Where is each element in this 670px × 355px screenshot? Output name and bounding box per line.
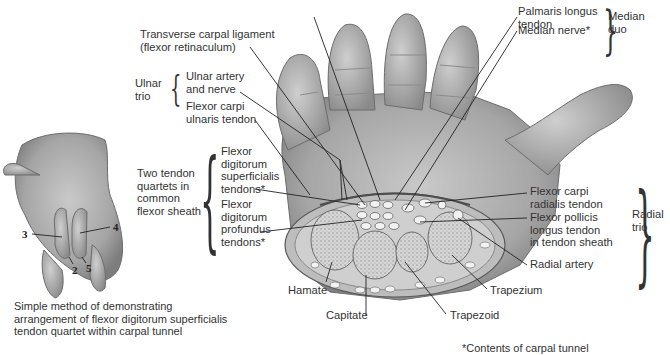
radial-trio-brace: { xyxy=(635,170,655,298)
inset-finger-number-3: 3 xyxy=(22,228,28,240)
footnote: *Contents of carpal tunnel xyxy=(462,342,589,355)
label-hamate: Hamate xyxy=(288,284,327,297)
label-median-nerve: Median nerve* xyxy=(518,24,590,37)
group-label-two-tendon-quartets: Two tendon quartets in common flexor she… xyxy=(137,167,201,217)
label-fdp-tendons: Flexor digitorum profundus tendons* xyxy=(221,198,271,248)
inset-finger-number-5: 5 xyxy=(86,262,92,274)
ulnar-trio-brace: { xyxy=(170,68,181,109)
inset-finger-number-2: 2 xyxy=(72,264,78,276)
label-flexor-carpi-ulnaris: Flexor carpi ulnaris tendon xyxy=(186,100,256,125)
label-capitate: Capitate xyxy=(326,309,368,322)
inset-hand xyxy=(3,133,122,298)
middle-finger xyxy=(384,14,426,110)
label-flexor-pollicis-longus: Flexor pollicis longus tendon in tendon … xyxy=(530,211,613,249)
trapezium-bone xyxy=(428,212,472,264)
inset-caption: Simple method of demonstrating arrangeme… xyxy=(14,300,227,338)
tendon-quartets-brace: { xyxy=(200,136,220,264)
label-ulnar-artery-nerve: Ulnar artery and nerve xyxy=(186,70,244,95)
group-label-median-duo: Median duo xyxy=(608,10,645,35)
capitate-bone xyxy=(353,231,397,279)
label-flexor-carpi-radialis: Flexor carpi radialis tendon xyxy=(530,185,603,210)
label-fds-tendons: Flexor digitorum superficialis tendons* xyxy=(221,145,279,195)
label-trapezium: Trapezium xyxy=(490,284,542,297)
inset-finger-4 xyxy=(72,209,87,259)
hamate-bone xyxy=(311,210,359,270)
inset-finger-number-4: 4 xyxy=(113,221,119,233)
group-label-ulnar-trio: Ulnar trio xyxy=(135,77,162,102)
label-radial-artery: Radial artery xyxy=(530,258,593,271)
label-transverse-carpal-ligament: Transverse carpal ligament (flexor retin… xyxy=(140,28,275,53)
label-trapezoid: Trapezoid xyxy=(450,309,499,322)
ring-finger xyxy=(328,24,375,110)
group-label-radial-trio: Radial trio xyxy=(632,208,664,233)
trapezoid-bone xyxy=(396,232,428,272)
